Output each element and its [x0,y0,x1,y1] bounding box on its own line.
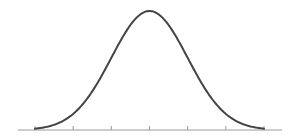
normal-distribution-chart [0,0,298,139]
x-axis-ticks [35,126,264,130]
bell-curve [35,11,264,129]
